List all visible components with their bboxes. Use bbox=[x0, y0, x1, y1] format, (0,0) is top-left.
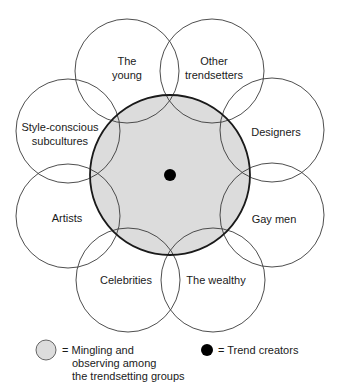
label-other-trendsetters-1: Other bbox=[200, 55, 228, 67]
label-style-conscious-2: subcultures bbox=[32, 135, 89, 147]
legend-mingling-swatch bbox=[36, 340, 56, 360]
label-celebrities: Celebrities bbox=[100, 274, 152, 286]
legend-mingling-line1: = Mingling and bbox=[62, 344, 134, 356]
label-the-young-1: The bbox=[118, 55, 137, 67]
label-designers: Designers bbox=[251, 126, 301, 138]
legend: = Mingling and observing among the trend… bbox=[36, 340, 299, 382]
legend-mingling-line2: observing among bbox=[72, 357, 156, 369]
legend-trend-creators-line1: = Trend creators bbox=[218, 344, 299, 356]
legend-mingling-line3: the trendsetting groups bbox=[72, 370, 185, 382]
label-gay-men: Gay men bbox=[252, 213, 297, 225]
label-the-young-2: young bbox=[112, 69, 142, 81]
label-other-trendsetters-2: trendsetters bbox=[185, 69, 244, 81]
label-style-conscious-1: Style-conscious bbox=[21, 121, 99, 133]
trendsetting-diagram: The young Other trendsetters Designers G… bbox=[0, 0, 337, 392]
legend-trend-creators-swatch bbox=[201, 344, 213, 356]
label-the-wealthy: The wealthy bbox=[186, 274, 246, 286]
label-artists: Artists bbox=[52, 212, 83, 224]
trend-creators-dot bbox=[164, 169, 176, 181]
